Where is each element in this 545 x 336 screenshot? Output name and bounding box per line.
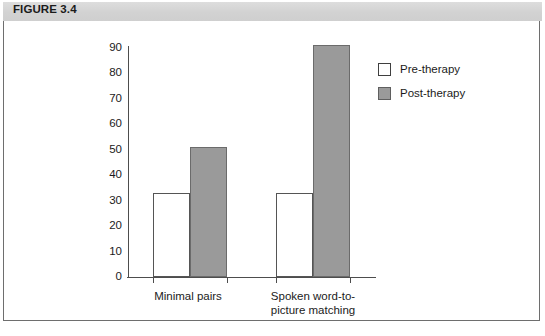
chart-legend: Pre-therapy Post-therapy	[378, 57, 508, 105]
legend-label-pre-therapy: Pre-therapy	[400, 63, 460, 75]
x-axis-group-label: Spoken word-to-picture matching	[248, 289, 378, 317]
legend-swatch-pre-therapy	[378, 63, 391, 76]
x-axis-group-label: Minimal pairs	[128, 289, 248, 303]
x-axis-tick	[153, 278, 154, 283]
x-axis-tick	[227, 278, 228, 283]
y-axis-tick-label: 30	[98, 195, 122, 207]
y-axis-tick-labels: 9080706050403020100	[96, 0, 122, 336]
plot-area	[128, 48, 374, 277]
y-axis-tick-label: 90	[98, 42, 122, 54]
legend-item-post-therapy: Post-therapy	[378, 81, 508, 105]
bar-pre-therapy	[276, 193, 313, 277]
figure-number-label: FIGURE 3.4	[13, 3, 77, 15]
y-axis-tick-label: 80	[98, 67, 122, 79]
bar-post-therapy	[313, 45, 350, 277]
y-axis-tick-label: 20	[98, 220, 122, 232]
figure-header-band	[3, 2, 542, 21]
y-axis-tick-label: 70	[98, 93, 122, 105]
legend-label-post-therapy: Post-therapy	[400, 87, 465, 99]
x-axis-line	[127, 277, 376, 278]
y-axis-tick-label: 0	[98, 271, 122, 283]
bar-pre-therapy	[153, 193, 190, 277]
y-axis-tick-label: 50	[98, 144, 122, 156]
legend-swatch-post-therapy	[378, 87, 391, 100]
figure-container: FIGURE 3.4 9080706050403020100 Minimal p…	[0, 0, 545, 336]
y-axis-tick-label: 40	[98, 169, 122, 181]
legend-item-pre-therapy: Pre-therapy	[378, 57, 508, 81]
bar-post-therapy	[190, 147, 227, 277]
y-axis-tick-label: 60	[98, 118, 122, 130]
y-axis-tick-label: 10	[98, 246, 122, 258]
x-axis-tick	[350, 278, 351, 283]
x-axis-tick	[276, 278, 277, 283]
